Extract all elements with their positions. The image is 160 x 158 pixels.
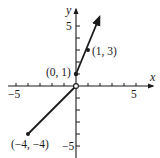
x-axis	[8, 83, 153, 86]
point-label-0-1: (0, 1)	[46, 66, 71, 79]
y-tick-label-5: 5	[66, 20, 72, 32]
segment-line	[28, 88, 75, 135]
x-tick-label-neg5: −5	[8, 88, 20, 100]
point-1-3	[86, 48, 90, 52]
point-0-1	[74, 72, 78, 76]
x-axis-label: x	[149, 70, 156, 84]
y-axis-label: y	[65, 3, 72, 17]
open-point-origin	[74, 84, 79, 89]
y-tick-label-neg5: −5	[62, 140, 74, 152]
function-graph: x y −5 5 5 −5 (0, 1) (1, 3) (−4, −4)	[0, 0, 160, 158]
x-tick-label-5: 5	[131, 88, 137, 100]
point-label-m4-m4: (−4, −4)	[11, 138, 49, 151]
point-label-1-3: (1, 3)	[92, 45, 117, 58]
point-m4-m4	[26, 132, 30, 136]
